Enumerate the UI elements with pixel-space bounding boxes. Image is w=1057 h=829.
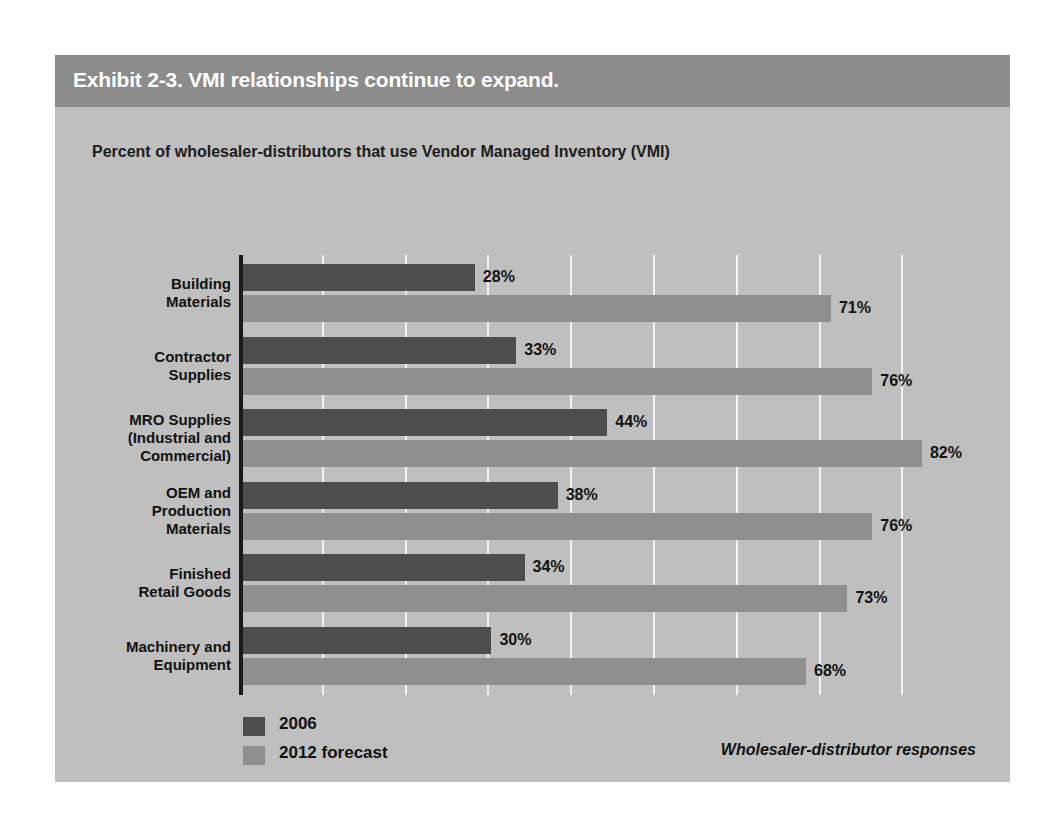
legend-label-0: 2006 <box>279 714 317 734</box>
bar-2012-forecast-5 <box>243 658 806 685</box>
exhibit-title-bar: Exhibit 2-3. VMI relationships continue … <box>55 55 1010 107</box>
bar-2006-3 <box>243 482 558 509</box>
bar-value-label: 76% <box>880 517 912 535</box>
category-label-line: Building <box>55 275 231 293</box>
bar-2006-5 <box>243 627 491 654</box>
bar-value-label: 44% <box>615 413 647 431</box>
category-label-line: Retail Goods <box>55 583 231 601</box>
category-label-line: Contractor <box>55 348 231 366</box>
category-label-line: Equipment <box>55 656 231 674</box>
category-label-line: Materials <box>55 520 231 538</box>
chart-legend: 20062012 forecast <box>239 712 639 770</box>
bar-value-label: 38% <box>566 486 598 504</box>
chart-subtitle: Percent of wholesaler-distributors that … <box>92 143 670 161</box>
bar-value-label: 30% <box>499 631 531 649</box>
category-label-0: BuildingMaterials <box>55 275 231 311</box>
category-label-5: Machinery andEquipment <box>55 638 231 674</box>
bar-value-label: 34% <box>533 558 565 576</box>
source-note: Wholesaler-distributor responses <box>721 741 976 759</box>
category-label-2: MRO Supplies(Industrial andCommercial) <box>55 411 231 465</box>
legend-item-1: 2012 forecast <box>239 741 639 770</box>
bar-2012-forecast-4 <box>243 585 847 612</box>
category-label-line: MRO Supplies <box>55 411 231 429</box>
category-label-line: (Industrial and <box>55 429 231 447</box>
legend-swatch-1 <box>243 746 265 765</box>
bar-value-label: 33% <box>524 341 556 359</box>
bar-2006-4 <box>243 554 525 581</box>
chart-container: Percent of wholesaler-distributors that … <box>55 107 1010 782</box>
legend-item-0: 2006 <box>239 712 639 741</box>
gridline-80 <box>901 255 903 695</box>
bar-2006-2 <box>243 409 607 436</box>
category-label-line: Production <box>55 502 231 520</box>
bar-2012-forecast-1 <box>243 368 872 395</box>
bar-value-label: 76% <box>880 372 912 390</box>
category-label-3: OEM andProductionMaterials <box>55 484 231 538</box>
bar-value-label: 68% <box>814 662 846 680</box>
bar-value-label: 28% <box>483 268 515 286</box>
bar-value-label: 82% <box>930 444 962 462</box>
bar-2006-1 <box>243 337 516 364</box>
bar-value-label: 71% <box>839 299 871 317</box>
category-label-4: FinishedRetail Goods <box>55 565 231 601</box>
bar-2012-forecast-3 <box>243 513 872 540</box>
category-label-line: Commercial) <box>55 447 231 465</box>
category-label-1: ContractorSupplies <box>55 348 231 384</box>
bar-2012-forecast-0 <box>243 295 831 322</box>
bar-2006-0 <box>243 264 475 291</box>
category-axis-labels: BuildingMaterialsContractorSuppliesMRO S… <box>55 255 231 692</box>
category-label-line: Finished <box>55 565 231 583</box>
legend-label-1: 2012 forecast <box>279 743 388 763</box>
category-label-line: Machinery and <box>55 638 231 656</box>
plot-area: 28%71%33%76%44%82%38%76%34%73%30%68% <box>239 255 939 692</box>
category-label-line: Supplies <box>55 366 231 384</box>
exhibit-title: Exhibit 2-3. VMI relationships continue … <box>73 68 559 92</box>
bar-value-label: 73% <box>855 589 887 607</box>
legend-swatch-0 <box>243 717 265 736</box>
category-label-line: Materials <box>55 293 231 311</box>
category-label-line: OEM and <box>55 484 231 502</box>
exhibit-panel: Exhibit 2-3. VMI relationships continue … <box>55 55 1010 782</box>
bar-2012-forecast-2 <box>243 440 922 467</box>
